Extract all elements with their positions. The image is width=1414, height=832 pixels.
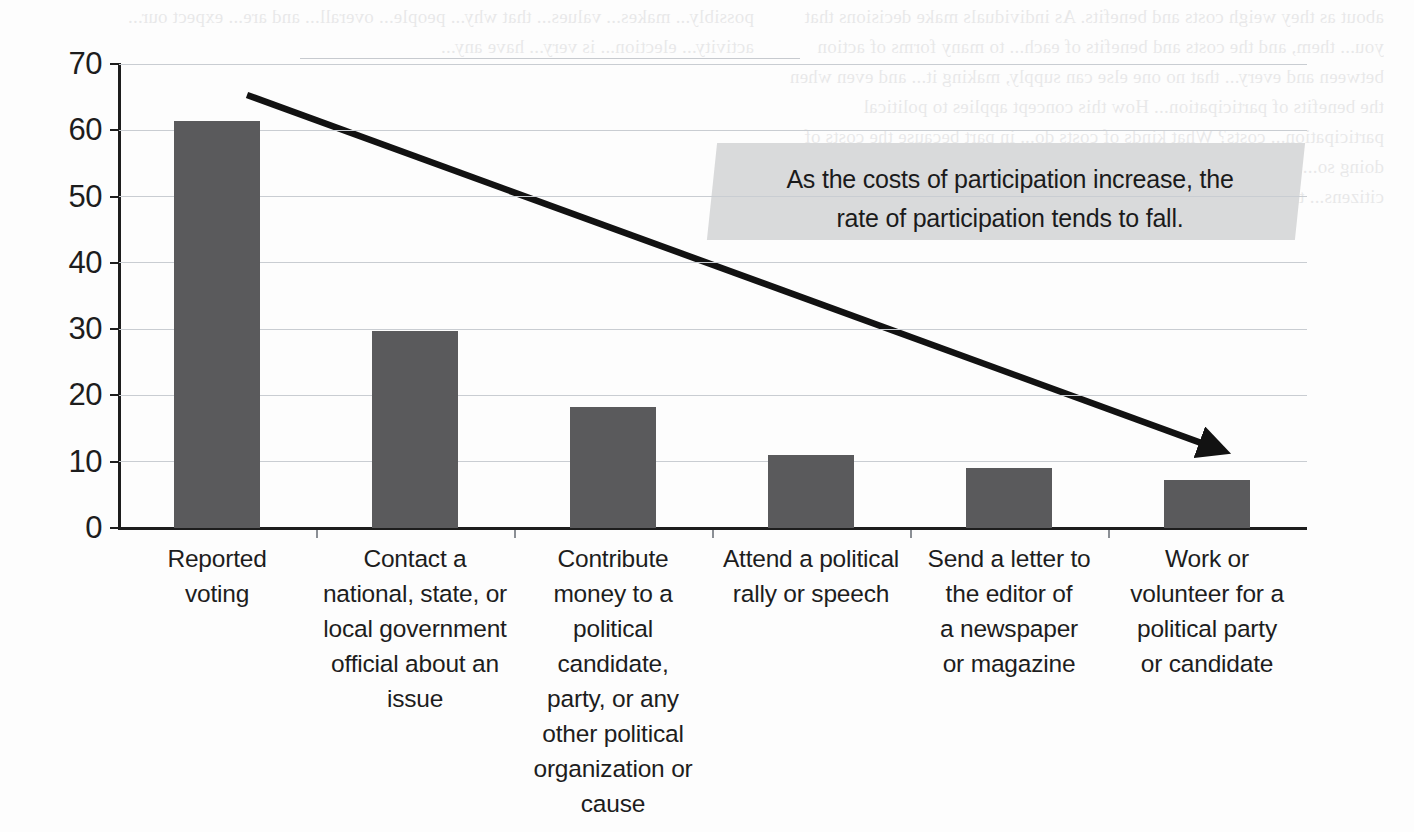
bar-5 <box>966 468 1052 528</box>
y-axis-label-20: 20 <box>69 379 102 410</box>
x-axis-label-6-line-4: or candidate <box>1110 646 1304 681</box>
x-axis-label-2-line-4: official about an <box>318 646 512 681</box>
x-axis-label-3-line-5: party, or any <box>516 681 710 716</box>
bar-chart-plot: As the costs of participation increase, … <box>0 0 1414 832</box>
y-tick-70 <box>110 63 119 65</box>
x-axis-label-3-line-6: other political <box>516 716 710 751</box>
x-axis-label-6: Work orvolunteer for apolitical partyor … <box>1110 541 1304 681</box>
y-tick-50 <box>110 196 119 198</box>
x-axis-label-2-line-1: Contact a <box>318 541 512 576</box>
bar-1 <box>174 121 260 528</box>
bar-4 <box>768 455 854 528</box>
x-tick-1 <box>316 530 318 538</box>
x-axis-label-2-line-5: issue <box>318 681 512 716</box>
x-axis-label-5: Send a letter tothe editor ofa newspaper… <box>912 541 1106 681</box>
gridline-40 <box>119 262 1307 263</box>
x-axis-label-2-line-2: national, state, or <box>318 576 512 611</box>
y-tick-60 <box>110 129 119 131</box>
x-tick-4 <box>910 530 912 538</box>
y-axis-label-30: 30 <box>69 313 102 344</box>
y-axis-label-0: 0 <box>85 512 102 543</box>
x-axis-label-5-line-1: Send a letter to <box>912 541 1106 576</box>
y-tick-20 <box>110 394 119 396</box>
gridline-50 <box>119 196 1307 197</box>
y-tick-40 <box>110 262 119 264</box>
x-tick-3 <box>712 530 714 538</box>
bar-2 <box>372 331 458 528</box>
chart-page: about as they weigh costs and benefits. … <box>0 0 1414 832</box>
x-axis-label-2: Contact anational, state, orlocal govern… <box>318 541 512 716</box>
bar-6 <box>1164 480 1250 528</box>
x-axis-label-5-line-3: a newspaper <box>912 611 1106 646</box>
x-axis-label-3: Contributemoney to apoliticalcandidate,p… <box>516 541 710 821</box>
gridline-70 <box>119 64 1307 65</box>
x-axis-label-1-line-2: voting <box>120 576 314 611</box>
x-axis-label-6-line-2: volunteer for a <box>1110 576 1304 611</box>
gridline-10 <box>119 461 1307 462</box>
bar-3 <box>570 407 656 528</box>
y-tick-10 <box>110 461 119 463</box>
y-axis-line <box>118 63 121 529</box>
x-axis-label-6-line-3: political party <box>1110 611 1304 646</box>
y-axis-label-60: 60 <box>69 114 102 145</box>
x-axis-label-4-line-2: rally or speech <box>714 576 908 611</box>
x-axis-label-3-line-2: money to a <box>516 576 710 611</box>
y-axis-label-50: 50 <box>69 181 102 212</box>
x-axis-label-1: Reportedvoting <box>120 541 314 611</box>
x-axis-label-3-line-3: political <box>516 611 710 646</box>
x-axis-label-3-line-4: candidate, <box>516 646 710 681</box>
x-axis-label-6-line-1: Work or <box>1110 541 1304 576</box>
x-axis-label-5-line-4: or magazine <box>912 646 1106 681</box>
y-tick-0 <box>110 527 119 529</box>
y-axis-label-40: 40 <box>69 247 102 278</box>
callout-line-1: As the costs of participation increase, … <box>730 160 1290 199</box>
gridline-30 <box>119 329 1307 330</box>
x-axis-label-3-line-7: organization or <box>516 751 710 786</box>
x-axis-label-2-line-3: local government <box>318 611 512 646</box>
x-axis-label-1-line-1: Reported <box>120 541 314 576</box>
gridline-20 <box>119 395 1307 396</box>
x-axis-label-4: Attend a politicalrally or speech <box>714 541 908 611</box>
y-axis-label-70: 70 <box>69 48 102 79</box>
x-axis-label-3-line-1: Contribute <box>516 541 710 576</box>
y-axis-label-10: 10 <box>69 446 102 477</box>
x-axis-label-5-line-2: the editor of <box>912 576 1106 611</box>
x-axis-label-4-line-1: Attend a political <box>714 541 908 576</box>
y-tick-30 <box>110 328 119 330</box>
callout-line-2: rate of participation tends to fall. <box>730 199 1290 238</box>
gridline-60 <box>119 130 1307 131</box>
x-tick-2 <box>514 530 516 538</box>
callout-text: As the costs of participation increase, … <box>730 160 1290 238</box>
x-axis-label-3-line-8: cause <box>516 786 710 821</box>
x-tick-5 <box>1108 530 1110 538</box>
